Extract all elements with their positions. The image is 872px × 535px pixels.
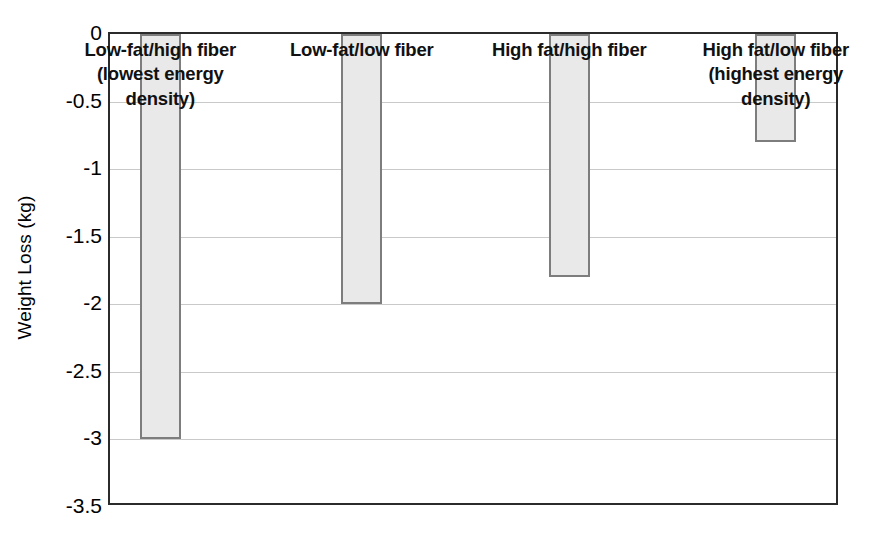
gridline xyxy=(110,372,836,373)
gridline xyxy=(110,304,836,305)
plot-area: Low-fat/high fiber (lowest energy densit… xyxy=(108,32,838,505)
y-tick-label: -2 xyxy=(42,292,102,313)
bar xyxy=(341,34,382,304)
y-tick-label: -1.5 xyxy=(42,224,102,245)
bar-label: High fat/high fiber xyxy=(454,38,684,62)
y-tick-label: -3 xyxy=(42,427,102,448)
y-tick-label: -3.5 xyxy=(42,495,102,516)
gridline xyxy=(110,439,836,440)
bar-label: Low-fat/low fiber xyxy=(247,38,477,62)
bar-label: High fat/low fiber (highest energy densi… xyxy=(661,38,872,111)
y-tick-label: -1 xyxy=(42,157,102,178)
y-tick-label: -2.5 xyxy=(42,359,102,380)
bar-label: Low-fat/high fiber (lowest energy densit… xyxy=(45,38,275,111)
bar-chart: Weight Loss (kg) 0-0.5-1-1.5-2-2.5-3-3.5… xyxy=(0,0,872,535)
gridline xyxy=(110,169,836,170)
y-axis-title: Weight Loss (kg) xyxy=(10,0,40,535)
gridline xyxy=(110,237,836,238)
bar xyxy=(549,34,590,277)
